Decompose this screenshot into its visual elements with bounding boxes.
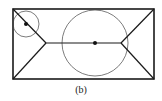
outer-rectangle [13,9,154,79]
figure-caption: (b) [0,84,162,95]
small-circle-center-dot [24,22,28,26]
skeleton-edge-bottom-right [121,43,154,79]
skeleton-edge-top-left [13,9,46,43]
skeleton-edge-bottom-left [13,43,46,79]
skeleton-edge-top-right [121,9,154,43]
large-circle-center-dot [93,41,97,45]
